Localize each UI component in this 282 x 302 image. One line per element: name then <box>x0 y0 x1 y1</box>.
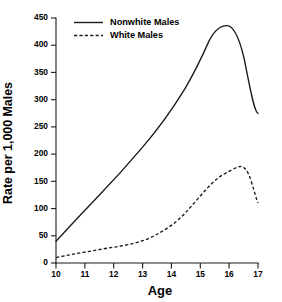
legend-label-white-males: White Males <box>110 30 163 40</box>
y-tick-label: 400 <box>34 39 48 49</box>
x-axis-tick-labels: 10 11 12 13 14 15 16 17 <box>51 269 263 279</box>
series-line-white-males <box>56 166 258 257</box>
y-tick-label: 350 <box>34 67 48 77</box>
line-chart: 0 50 100 150 200 250 300 350 400 450 10 … <box>0 0 282 302</box>
legend-label-nonwhite-males: Nonwhite Males <box>110 17 179 27</box>
y-tick-label: 450 <box>34 12 48 22</box>
y-tick-label: 150 <box>34 176 48 186</box>
x-tick-label: 11 <box>80 269 89 279</box>
x-tick-label: 14 <box>167 269 177 279</box>
x-tick-label: 17 <box>253 269 263 279</box>
y-tick-label: 100 <box>34 203 48 213</box>
chart-container: 0 50 100 150 200 250 300 350 400 450 10 … <box>0 0 282 302</box>
chart-legend: Nonwhite Males White Males <box>74 17 179 40</box>
x-axis-ticks <box>56 263 258 269</box>
y-axis-tick-labels: 0 50 100 150 200 250 300 350 400 450 <box>34 12 48 267</box>
y-tick-label: 200 <box>34 148 48 158</box>
x-axis-title: Age <box>148 283 173 298</box>
x-tick-label: 10 <box>51 269 61 279</box>
y-tick-label: 300 <box>34 94 48 104</box>
y-tick-label: 0 <box>43 257 48 267</box>
series-line-nonwhite-males <box>56 26 258 242</box>
x-tick-label: 13 <box>138 269 148 279</box>
x-tick-label: 16 <box>224 269 234 279</box>
y-tick-label: 50 <box>39 230 49 240</box>
y-axis-ticks <box>51 18 56 263</box>
y-tick-label: 250 <box>34 121 48 131</box>
x-tick-label: 12 <box>109 269 119 279</box>
x-tick-label: 15 <box>196 269 206 279</box>
y-axis-title: Rate per 1,000 Males <box>1 82 15 204</box>
